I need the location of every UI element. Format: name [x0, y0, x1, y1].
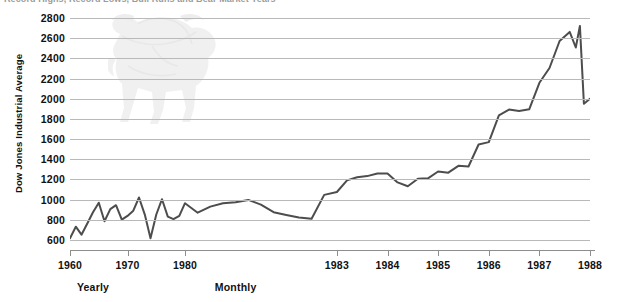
x-tick	[128, 250, 129, 256]
y-tick-label: 2800	[41, 12, 65, 24]
y-tick-label: 2400	[41, 52, 65, 64]
gridline: 600	[70, 240, 590, 241]
x-tick	[539, 250, 540, 256]
x-tick	[70, 250, 71, 256]
y-tick-label: 1200	[41, 173, 65, 185]
y-tick-label: 1800	[41, 113, 65, 125]
gridline: 2000	[70, 99, 590, 100]
gridline: 2800	[70, 18, 590, 19]
gridline: 1000	[70, 200, 590, 201]
x-tick	[438, 250, 439, 256]
x-tick	[489, 250, 490, 256]
x-tick-label: 1985	[426, 259, 450, 271]
x-tick-label: 1987	[527, 259, 551, 271]
y-tick-label: 2200	[41, 73, 65, 85]
gridline: 1400	[70, 159, 590, 160]
x-tick-label: 1984	[375, 259, 399, 271]
x-tick-label: 1970	[115, 259, 139, 271]
plot-area: 6008001000120014001600180020002200240026…	[70, 18, 590, 250]
y-axis-label: Dow Jones Industrial Average	[13, 44, 24, 204]
y-tick-label: 1400	[41, 153, 65, 165]
x-tick-label: 1980	[173, 259, 197, 271]
x-tick	[590, 250, 591, 256]
gridline: 2200	[70, 79, 590, 80]
y-tick-label: 2000	[41, 93, 65, 105]
x-tick	[388, 250, 389, 256]
gridline: 2600	[70, 38, 590, 39]
gridline: 1200	[70, 179, 590, 180]
x-tick-label: 1983	[325, 259, 349, 271]
y-tick-label: 800	[47, 214, 65, 226]
y-tick-label: 1600	[41, 133, 65, 145]
x-tick-label: 1988	[578, 259, 602, 271]
gridline: 1800	[70, 119, 590, 120]
section-label: Yearly	[77, 281, 109, 293]
y-tick-label: 1000	[41, 194, 65, 206]
x-tick	[337, 250, 338, 256]
chart-title: Record Highs, Record Lows, Bull Runs and…	[4, 0, 424, 4]
y-tick-label: 600	[47, 234, 65, 246]
gridline: 2400	[70, 58, 590, 59]
x-axis-line	[70, 250, 595, 251]
series-dow-jones-industrial-average	[70, 18, 590, 250]
section-label: Monthly	[215, 281, 257, 293]
gridline: 800	[70, 220, 590, 221]
gridline: 1600	[70, 139, 590, 140]
y-tick-label: 2600	[41, 32, 65, 44]
chart-root: Record Highs, Record Lows, Bull Runs and…	[0, 0, 623, 302]
x-tick-label: 1960	[58, 259, 82, 271]
x-tick-label: 1986	[477, 259, 501, 271]
x-tick	[185, 250, 186, 256]
